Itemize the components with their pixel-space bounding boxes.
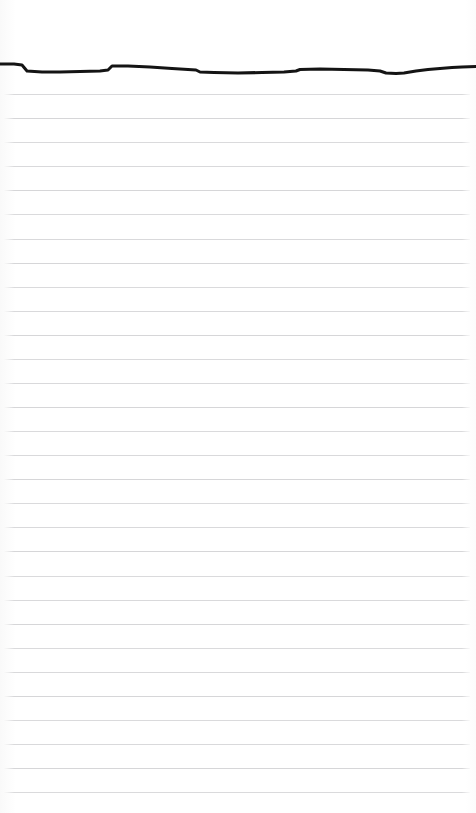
rule-line — [4, 744, 470, 745]
rule-line — [4, 624, 470, 625]
rule-line — [4, 479, 470, 480]
rule-line — [4, 118, 470, 119]
ruled-lines-group — [0, 0, 476, 813]
rule-line — [4, 431, 470, 432]
rule-line — [4, 311, 470, 312]
rule-line — [4, 142, 470, 143]
rule-line — [4, 335, 470, 336]
rule-line — [4, 190, 470, 191]
rule-line — [4, 672, 470, 673]
rule-line — [4, 551, 470, 552]
rule-line — [4, 359, 470, 360]
rule-line — [4, 648, 470, 649]
rule-line — [4, 94, 470, 95]
rule-line — [4, 503, 470, 504]
rule-line — [4, 768, 470, 769]
bottom-margin-area — [0, 792, 476, 813]
notepad-page — [0, 0, 476, 813]
rule-line — [4, 720, 470, 721]
rule-line — [4, 527, 470, 528]
rule-line — [4, 696, 470, 697]
rule-line — [4, 455, 470, 456]
rule-line — [4, 383, 470, 384]
rule-line — [4, 576, 470, 577]
rule-line — [4, 214, 470, 215]
rule-line — [4, 600, 470, 601]
rule-line — [4, 407, 470, 408]
rule-line — [4, 263, 470, 264]
rule-line — [4, 166, 470, 167]
rule-line — [4, 287, 470, 288]
rule-line — [4, 239, 470, 240]
